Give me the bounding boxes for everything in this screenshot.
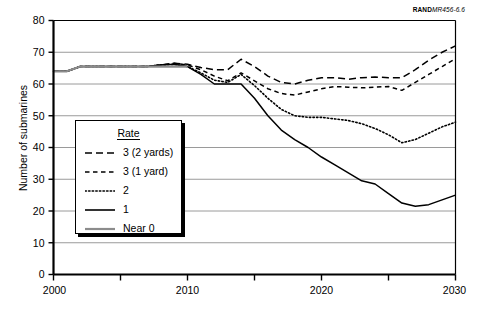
x-tick-label: 2000 [43, 284, 67, 296]
series-line [54, 67, 188, 72]
legend-item-label: 3 (1 yard) [123, 166, 168, 177]
x-tick-label: 2020 [310, 284, 334, 296]
y-tick-label: 40 [33, 141, 45, 153]
legend-item: 1 [76, 200, 181, 219]
series-line [54, 59, 456, 96]
legend-swatch-solid-icon [85, 224, 115, 234]
x-tick-labels: 2000201020202030 [43, 284, 467, 296]
chart-plot: 01020304050607080 2000201020202030 [0, 0, 479, 310]
figure-container: RANDMR456-6.6 Number of submarines 01020… [0, 0, 479, 310]
y-tick-label: 30 [33, 173, 45, 185]
legend-swatch-solid-icon [85, 205, 115, 215]
series-line [54, 46, 456, 84]
legend-title: Rate [76, 127, 181, 139]
legend-item: 2 [76, 181, 181, 200]
y-tick-label: 70 [33, 46, 45, 58]
legend-item-label: 2 [123, 185, 129, 196]
y-tick-label: 50 [33, 110, 45, 122]
legend-swatch-long-dash-icon [85, 148, 115, 158]
legend-item-label: 3 (2 yards) [123, 147, 173, 158]
legend: Rate 3 (2 yards)3 (1 yard)21Near 0 [75, 120, 182, 234]
legend-item: 3 (1 yard) [76, 162, 181, 181]
legend-items: 3 (2 yards)3 (1 yard)21Near 0 [76, 143, 181, 238]
x-tick-label: 2030 [443, 284, 467, 296]
legend-item-label: Near 0 [123, 223, 155, 234]
y-tick-label: 60 [33, 78, 45, 90]
legend-swatch-dotted-icon [85, 186, 115, 196]
y-tick-label: 0 [39, 268, 45, 280]
y-tick-label: 10 [33, 237, 45, 249]
y-tick-label: 20 [33, 205, 45, 217]
legend-item: 3 (2 yards) [76, 143, 181, 162]
y-tick-label: 80 [33, 14, 45, 26]
y-tick-labels: 01020304050607080 [33, 14, 45, 280]
legend-item-label: 1 [123, 204, 129, 215]
legend-title-text: Rate [117, 127, 139, 140]
x-tick-label: 2010 [176, 284, 200, 296]
legend-item: Near 0 [76, 219, 181, 238]
legend-swatch-short-dash-icon [85, 167, 115, 177]
